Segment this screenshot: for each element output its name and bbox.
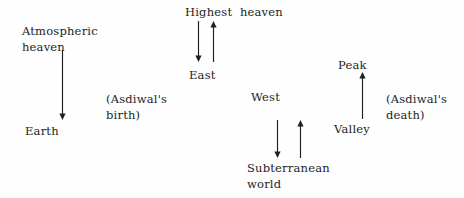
label-east: East [189,68,216,84]
arrow-east-to-highest-heaven [207,21,220,62]
arrow-subterranean-world-to-west [294,120,307,158]
label-asdiwal-death: (Asdiwal's death) [386,92,447,123]
label-earth: Earth [25,124,59,140]
diagram-canvas: Atmospheric heavenEarthHighest heavenEas… [0,0,464,198]
arrow-west-to-subterranean-world [271,120,284,158]
arrow-highest-heaven-to-east [192,21,205,62]
label-highest-heaven: Highest heaven [185,5,283,21]
arrow-atmospheric-heaven-to-earth [56,50,69,120]
label-asdiwal-birth: (Asdiwal's birth) [106,92,167,123]
label-subterranean-world: Subterranean world [247,161,330,192]
label-west: West [251,90,280,106]
arrow-valley-to-peak [356,72,369,119]
label-valley: Valley [334,122,370,138]
